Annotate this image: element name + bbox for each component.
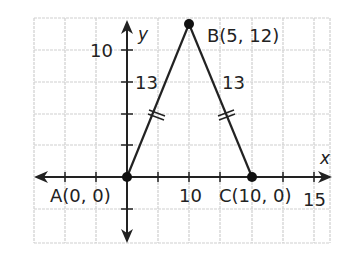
- point-b: [184, 19, 194, 29]
- x-axis-label: x: [319, 148, 331, 168]
- point-c: [247, 172, 257, 182]
- congruence-marks: [148, 110, 235, 120]
- grid: [34, 18, 330, 243]
- y-axis-label: y: [137, 24, 149, 44]
- point-b-label: B(5, 12): [207, 25, 279, 46]
- point-a: [122, 172, 132, 182]
- x-tick-label-10: 10: [179, 185, 202, 206]
- side-bc-length: 13: [222, 72, 245, 93]
- point-c-label: C(10, 0): [219, 185, 291, 206]
- point-a-label: A(0, 0): [50, 185, 111, 206]
- coordinate-diagram: y x 10 10 15 A(0, 0) B(5, 12) C(10, 0) 1…: [0, 0, 364, 261]
- y-tick-label-10: 10: [90, 40, 113, 61]
- x-tick-label-15: 15: [303, 189, 326, 210]
- side-ab-length: 13: [135, 72, 158, 93]
